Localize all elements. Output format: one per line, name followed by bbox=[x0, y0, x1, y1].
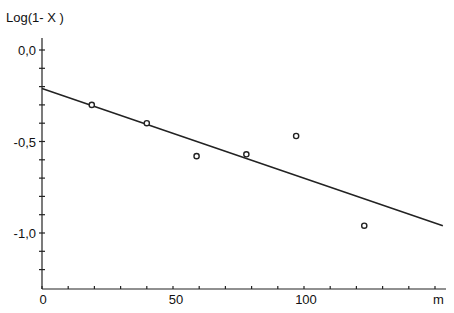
data-point bbox=[244, 152, 249, 157]
y-tick-label: -1,0 bbox=[14, 226, 36, 241]
fit-line bbox=[42, 88, 443, 225]
y-axis-label: Log(1- X ) bbox=[6, 10, 64, 25]
data-point bbox=[294, 133, 299, 138]
data-point bbox=[194, 154, 199, 159]
x-tick-label: 100 bbox=[295, 292, 317, 307]
axes bbox=[42, 38, 446, 289]
data-points bbox=[89, 102, 367, 228]
data-point bbox=[362, 223, 367, 228]
x-tick-labels: 0 50 100 bbox=[39, 292, 316, 307]
chart: Log(1- X ) m 0,0 -0,5 -1,0 0 50 100 bbox=[0, 0, 454, 313]
y-tick-labels: 0,0 -0,5 -1,0 bbox=[14, 43, 36, 241]
x-axis-label: m bbox=[433, 292, 444, 307]
data-point bbox=[144, 121, 149, 126]
x-tick-label: 50 bbox=[169, 292, 183, 307]
x-tick-label: 0 bbox=[39, 292, 46, 307]
data-point bbox=[89, 102, 94, 107]
y-tick-label: -0,5 bbox=[14, 135, 36, 150]
y-tick-label: 0,0 bbox=[18, 43, 36, 58]
